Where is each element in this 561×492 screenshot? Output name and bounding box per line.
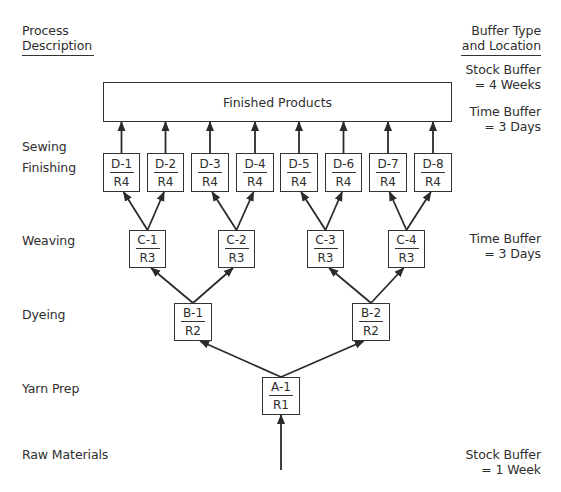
node-id: D-6 [333,157,354,172]
arrow-edge [200,341,281,377]
node-id: D-3 [199,157,220,172]
node-id: B-2 [361,306,381,321]
node-id: C-2 [226,233,246,248]
node-d-6: D-6R4 [325,153,362,192]
node-id: C-4 [396,233,416,248]
node-d-2: D-2R4 [147,153,184,192]
arrow-edge [329,268,371,303]
node-c-4: C-4R3 [388,230,425,268]
node-resource: R4 [425,173,441,189]
node-b-1: B-1R2 [174,303,212,341]
arrow-edge [151,268,193,303]
node-id: A-1 [271,380,291,395]
node-c-3: C-3R3 [307,230,344,268]
node-resource: R4 [114,173,130,189]
node-resource: R4 [158,173,174,189]
node-resource: R1 [273,396,289,412]
node-b-2: B-2R2 [352,303,390,341]
node-id: D-2 [155,157,176,172]
node-id: D-8 [422,157,443,172]
node-resource: R4 [247,173,263,189]
node-resource: R4 [336,173,352,189]
flow-diagram: Process Description Buffer Type and Loca… [0,0,561,492]
node-d-8: D-8R4 [414,153,452,192]
arrow-edge [237,192,254,230]
arrow-edge [148,192,165,230]
arrow-edge [301,192,325,230]
node-a-1: A-1R1 [262,377,300,415]
node-resource: R3 [229,249,245,265]
node-id: D-5 [288,157,309,172]
node-id: D-4 [244,157,265,172]
arrow-edge [326,192,343,230]
node-c-2: C-2R3 [218,230,255,268]
arrow-edge [281,341,364,377]
node-resource: R3 [318,249,334,265]
node-id: C-1 [137,233,157,248]
finished-products-box: Finished Products [103,82,452,122]
arrow-edge [212,192,236,230]
node-id: C-3 [315,233,335,248]
node-id: B-1 [183,306,203,321]
node-resource: R3 [140,249,156,265]
node-resource: R4 [291,173,307,189]
arrow-edge [193,268,233,303]
node-id: D-1 [111,157,132,172]
arrow-edge [371,268,404,303]
node-d-4: D-4R4 [236,153,274,192]
edges-layer [0,0,561,492]
node-resource: R3 [399,249,415,265]
node-resource: R4 [380,173,396,189]
node-c-1: C-1R3 [129,230,166,268]
node-resource: R2 [363,322,379,338]
arrow-edge [124,192,148,230]
node-resource: R4 [202,173,218,189]
node-resource: R2 [185,322,201,338]
node-d-5: D-5R4 [280,153,318,192]
finished-products-label: Finished Products [223,95,332,110]
node-d-7: D-7R4 [369,153,407,192]
node-id: D-7 [377,157,398,172]
node-d-1: D-1R4 [103,153,140,192]
arrow-edge [407,192,431,230]
node-d-3: D-3R4 [191,153,229,192]
arrow-edge [389,192,406,230]
